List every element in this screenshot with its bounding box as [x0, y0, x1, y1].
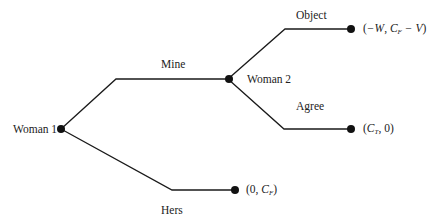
action-label-agree: Agree: [296, 101, 324, 113]
paren-close: ): [390, 122, 394, 134]
payoff-object: (−W, CF − V): [363, 23, 426, 36]
edge-object: [228, 29, 350, 79]
node-woman-1: [57, 125, 65, 133]
action-label-object: Object: [296, 10, 327, 22]
edge-mine: [61, 79, 228, 129]
player-label-woman-1: Woman 1: [13, 124, 57, 136]
payoff-agree: (CT, 0): [363, 123, 394, 136]
payoff-b-symbol: C: [390, 22, 398, 34]
edge-hers: [61, 129, 234, 190]
edge-agree: [228, 79, 350, 129]
terminal-node-agree: [347, 125, 355, 133]
terminal-node-hers: [231, 186, 239, 194]
player-label-woman-2: Woman 2: [247, 74, 291, 86]
paren-close: ): [422, 22, 426, 34]
paren-close: ): [273, 183, 277, 195]
action-label-hers: Hers: [161, 205, 183, 217]
payoff-a: −W: [367, 22, 384, 34]
payoff-b-rest: − V: [402, 22, 423, 34]
payoff-a-symbol: C: [367, 122, 375, 134]
terminal-node-object: [347, 25, 355, 33]
action-label-mine: Mine: [161, 59, 185, 71]
node-woman-2: [225, 75, 233, 83]
payoff-hers: (0, CF): [246, 184, 277, 197]
payoff-b-symbol: C: [261, 183, 269, 195]
